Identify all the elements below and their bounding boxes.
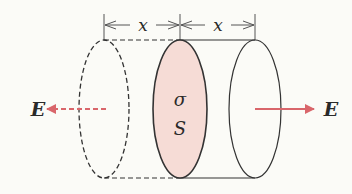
field-label-right: E xyxy=(323,98,339,120)
gauss-cylinder-diagram: x x E σ S E xyxy=(0,0,352,194)
area-label: S xyxy=(174,118,186,139)
dimension-lines xyxy=(104,14,255,40)
diagram-canvas: x x E σ S E xyxy=(0,0,352,194)
sigma-label: σ xyxy=(174,89,187,110)
distance-label-left: x xyxy=(138,15,148,35)
field-label-left: E xyxy=(30,98,46,120)
distance-label-right: x xyxy=(213,15,223,35)
